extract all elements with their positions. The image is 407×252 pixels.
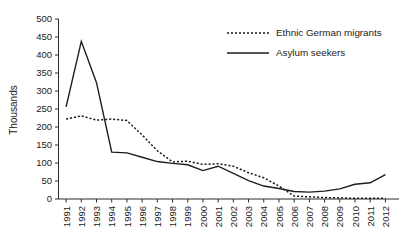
y-tick-label: 450 (36, 31, 52, 42)
x-tick-label: 2002 (228, 206, 239, 227)
x-tick-label: 2003 (243, 206, 254, 227)
series-line-asylum-seekers (66, 41, 385, 192)
y-tick-label: 500 (36, 13, 52, 24)
legend-label: Asylum seekers (276, 47, 345, 58)
x-tick-label: 1991 (61, 206, 72, 227)
y-tick-label: 200 (36, 121, 52, 132)
x-tick-label: 1992 (76, 206, 87, 227)
y-tick-label: 150 (36, 139, 52, 150)
series-line-ethnic-german-migrants (66, 116, 385, 198)
x-tick-label: 2010 (350, 206, 361, 227)
y-tick-label: 300 (36, 85, 52, 96)
x-tick-label: 2005 (274, 206, 285, 227)
x-tick-label: 2007 (304, 206, 315, 227)
x-tick-label: 1995 (122, 206, 133, 227)
y-tick-label: 0 (47, 193, 52, 204)
x-tick-label: 2008 (319, 206, 330, 227)
x-tick-label: 2004 (258, 206, 269, 227)
x-tick-label: 1993 (91, 206, 102, 227)
y-tick-label: 250 (36, 103, 52, 114)
y-tick-label: 100 (36, 157, 52, 168)
line-chart: Thousands 050100150200250300350400450500… (0, 0, 407, 252)
x-tick-label: 1998 (167, 206, 178, 227)
x-tick-label: 1999 (182, 206, 193, 227)
y-axis-title-text: Thousands (8, 85, 19, 134)
y-tick-label: 400 (36, 49, 52, 60)
x-tick-label: 1996 (137, 206, 148, 227)
x-axis-ticks: 1991199219931994199519961997199819992000… (61, 199, 391, 227)
x-tick-label: 1994 (106, 206, 117, 227)
y-axis-title: Thousands (8, 85, 19, 134)
legend-label: Ethnic German migrants (276, 27, 382, 38)
x-tick-label: 2011 (365, 206, 376, 226)
x-tick-label: 2006 (289, 206, 300, 227)
x-tick-label: 2000 (198, 206, 209, 227)
y-tick-label: 50 (41, 175, 52, 186)
chart-legend: Ethnic German migrantsAsylum seekers (227, 27, 382, 58)
y-tick-label: 350 (36, 67, 52, 78)
x-tick-label: 2012 (380, 206, 391, 227)
chart-container: Thousands 050100150200250300350400450500… (0, 0, 407, 252)
x-tick-label: 2009 (334, 206, 345, 227)
x-tick-label: 2001 (213, 206, 224, 227)
x-tick-label: 1997 (152, 206, 163, 227)
y-axis-ticks: 050100150200250300350400450500 (36, 13, 58, 204)
